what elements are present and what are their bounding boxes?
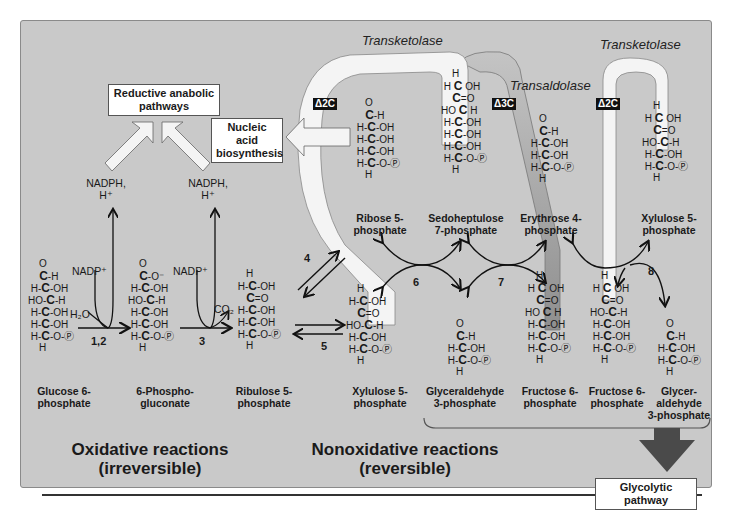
glucose6p-line1: Glucose 6- <box>34 385 94 397</box>
nadph-2-text: NADPH, <box>188 177 228 189</box>
nonoxidative-line1: Nonoxidative reactions <box>300 440 510 459</box>
phosphogluconate-structure: O C-O⁻ H-C-OHHO-C-H H-C-OH H-C-OH H-C-O-… <box>128 258 174 354</box>
nadp-label-2: NADP⁺ <box>173 265 208 277</box>
molecule-fructose6p-a: Fructose 6- phosphate <box>517 385 583 409</box>
delta-3c-tag: Δ3C <box>492 98 516 110</box>
nadph-arrow-left <box>105 122 153 171</box>
nadp-label-1: NADP⁺ <box>72 265 107 277</box>
reaction-number-3: 3 <box>199 335 205 347</box>
xylulose5p-a-line2: phosphate <box>348 397 412 409</box>
molecule-ribulose5p: Ribulose 5- phosphate <box>232 385 296 409</box>
fructose6p-a-line1: Fructose 6- <box>517 385 583 397</box>
molecule-fructose6p-b: Fructose 6- phosphate <box>584 385 650 409</box>
glyceraldehyde3p-b-line1: Glycer- <box>646 385 712 397</box>
molecule-xylulose5p-b: Xylulose 5- phosphate <box>636 212 702 236</box>
hplus-1-text: H⁺ <box>86 189 126 201</box>
sedoheptulose7p-structure: H H C OH C=OHO C H H-C-OH H-C-OH H-C-OH … <box>441 68 487 176</box>
reductive-line1: Reductive anabolic <box>113 87 215 100</box>
xylulose5p-a-line1: Xylulose 5- <box>348 385 412 397</box>
co2-label: CO₂ <box>214 303 234 315</box>
reaction-number-4: 4 <box>304 252 310 264</box>
ribulose5p-structure: H H-C-OH C=O H-C-OH H-C-OH H-C-O-Ⓟ H <box>235 268 281 352</box>
erythrose4p-structure: O C-H H-C-OH H-C-OH H-C-O-Ⓟ H <box>528 113 574 185</box>
ribose5p-line1: Ribose 5- <box>348 212 412 224</box>
xylulose5p-b-structure: H H C OH C=OHO-C-H H-C-OH H-C-O-Ⓟ H <box>642 100 688 184</box>
enzyme-transaldolase: Transaldolase <box>510 78 591 93</box>
ribose5p-line2: phosphate <box>348 224 412 236</box>
nadph-1-text: NADPH, <box>86 177 126 189</box>
molecule-sedoheptulose7p: Sedoheptulose 7-phosphate <box>426 212 506 236</box>
enzyme-transketolase-1: Transketolase <box>362 33 443 48</box>
fructose6p-b-line2: phosphate <box>584 397 650 409</box>
nadph-label-2: NADPH, H⁺ <box>188 177 228 201</box>
sedoheptulose7p-line1: Sedoheptulose <box>426 212 506 224</box>
glyceraldehyde3p-a-line1: Glyceraldehyde <box>422 385 508 397</box>
glyceraldehyde3p-b-line3: 3-phosphate <box>646 409 712 421</box>
fructose6p-a-line2: phosphate <box>517 397 583 409</box>
reaction-number-8: 8 <box>648 265 654 277</box>
fructose6p-b-structure: H H C OH C=OHO-C-H H-C-OH H-C-OH H-C-O-Ⓟ… <box>590 270 636 366</box>
molecule-glucose6p: Glucose 6- phosphate <box>34 385 94 409</box>
glucose6p-line2: phosphate <box>34 397 94 409</box>
erythrose4p-line2: phosphate <box>514 224 588 236</box>
glyceraldehyde3p-b-line2: aldehyde <box>646 397 712 409</box>
reductive-line2: pathways <box>113 100 215 113</box>
molecule-glyceraldehyde3p-a: Glyceraldehyde 3-phosphate <box>422 385 508 409</box>
pathway-graphics <box>0 0 730 516</box>
fructose6p-b-line1: Fructose 6- <box>584 385 650 397</box>
xylulose5p-b-line2: phosphate <box>636 224 702 236</box>
glyceraldehyde3p-a-line2: 3-phosphate <box>422 397 508 409</box>
sedoheptulose7p-line2: 7-phosphate <box>426 224 506 236</box>
oxidative-line1: Oxidative reactions <box>60 440 240 459</box>
phosphogluconate-line1: 6-Phospho- <box>130 385 200 397</box>
xylulose5p-a-structure: H H-C-OH C=OHO-C-H H-C-OH H-C-O-Ⓟ H <box>346 283 392 367</box>
nadph-arrow-right <box>162 122 210 171</box>
reaction-number-1-2: 1,2 <box>91 335 106 347</box>
molecule-ribose5p: Ribose 5- phosphate <box>348 212 412 236</box>
delta-2c-tag-1: Δ2C <box>313 98 337 110</box>
oxidative-heading: Oxidative reactions (irreversible) <box>60 440 240 478</box>
glyceraldehyde3p-b-structure: O C-H H-C-OH H-C-O-Ⓟ H <box>655 318 701 378</box>
glycolysis-arrow <box>639 428 695 472</box>
glyceraldehyde3p-a-structure: O C-H H-C-OH H-C-O-Ⓟ H <box>445 318 491 378</box>
nadph-label-1: NADPH, H⁺ <box>86 177 126 201</box>
glucose6p-structure: O C-H H-C-OHHO-C-H H-C-OH H-C-OH H-C-O-Ⓟ… <box>28 258 74 354</box>
xylulose5p-b-line1: Xylulose 5- <box>636 212 702 224</box>
reaction-number-5: 5 <box>321 340 327 352</box>
glycolytic-pathway-box: Glycolytic pathway <box>595 478 697 510</box>
oxidative-line2: (irreversible) <box>60 459 240 478</box>
ribulose5p-line1: Ribulose 5- <box>232 385 296 397</box>
molecule-phosphogluconate: 6-Phospho- gluconate <box>130 385 200 409</box>
nucleic-acid-box: Nucleic acid biosynthesis <box>211 118 283 163</box>
molecule-xylulose5p-a: Xylulose 5- phosphate <box>348 385 412 409</box>
hplus-2-text: H⁺ <box>188 189 228 201</box>
phosphogluconate-line2: gluconate <box>130 397 200 409</box>
nucleic-line2: biosynthesis <box>216 147 278 160</box>
molecule-glyceraldehyde3p-b: Glycer- aldehyde 3-phosphate <box>646 385 712 421</box>
reaction-number-6: 6 <box>413 276 419 288</box>
fructose6p-a-structure: H H C OH C=OHO C H H-C-OH H-C-OH H-C-O-Ⓟ… <box>525 270 571 366</box>
reductive-anabolic-box: Reductive anabolic pathways <box>108 84 220 116</box>
reaction-number-7: 7 <box>498 276 504 288</box>
delta-2c-tag-2: Δ2C <box>596 98 620 110</box>
nucleic-line1: Nucleic acid <box>216 121 278 147</box>
enzyme-transketolase-2: Transketolase <box>600 37 681 52</box>
molecule-erythrose4p: Erythrose 4- phosphate <box>514 212 588 236</box>
ribose5p-structure: O C-H H-C-OH H-C-OH H-C-OH H-C-O-Ⓟ H <box>354 97 400 181</box>
nonoxidative-heading: Nonoxidative reactions (reversible) <box>300 440 510 478</box>
ribulose5p-line2: phosphate <box>232 397 296 409</box>
nonoxidative-line2: (reversible) <box>300 459 510 478</box>
erythrose4p-line1: Erythrose 4- <box>514 212 588 224</box>
